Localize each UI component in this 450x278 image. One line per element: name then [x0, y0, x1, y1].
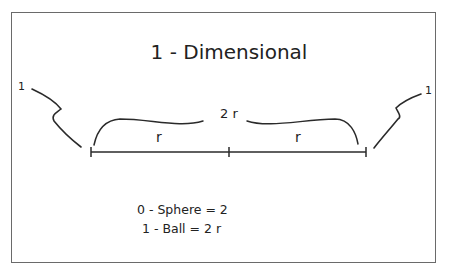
- one-dimensional-ball-diagram: [0, 0, 450, 278]
- left-brace-arc: [94, 119, 203, 145]
- right-brace-arc: [247, 119, 358, 144]
- left-segment-label: r: [156, 129, 162, 145]
- right-segment-label: r: [295, 129, 301, 145]
- sphere-equation: 0 - Sphere = 2: [137, 202, 228, 217]
- left-endpoint-pointer: [32, 89, 81, 147]
- total-length-label: 2 r: [220, 106, 238, 121]
- right-endpoint-label: 1: [425, 84, 432, 97]
- ball-equation: 1 - Ball = 2 r: [142, 221, 221, 236]
- left-endpoint-label: 1: [18, 80, 25, 93]
- right-endpoint-pointer: [374, 94, 421, 148]
